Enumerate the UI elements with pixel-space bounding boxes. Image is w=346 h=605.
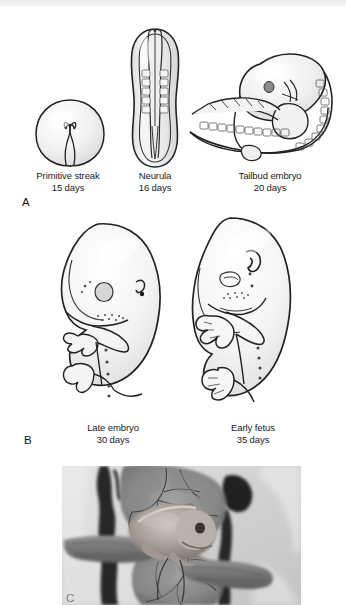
stage-name: Early fetus [231,422,275,433]
caption-primitive-streak: Primitive streak 15 days [8,170,128,193]
figure-late-embryo-limb-buds [52,216,170,412]
figure-tailbud-embryo-somites [186,46,344,166]
panel-letter-b: B [24,434,32,446]
caption-early-fetus: Early fetus 35 days [200,422,306,445]
stage-name: Late embryo [87,422,139,433]
panel-letter-a: A [22,196,30,208]
stage-age: 30 days [97,434,130,445]
figure-early-fetus-digits [180,212,302,412]
caption-neurula: Neurula 16 days [113,170,197,193]
panel-letter-c: C [66,592,74,604]
stage-age: 20 days [254,182,287,193]
stage-age: 16 days [139,182,172,193]
stage-name: Primitive streak [36,170,99,181]
photograph-uterine-specimen [62,466,301,605]
caption-tailbud-embryo: Tailbud embryo 20 days [212,170,328,193]
figure-neurula-neural-groove [123,26,187,170]
stage-name: Neurula [139,170,172,181]
page-top-edge-strip [0,0,346,7]
stage-name: Tailbud embryo [238,170,301,181]
caption-late-embryo: Late embryo 30 days [58,422,168,445]
stage-age: 15 days [52,182,85,193]
figure-page: Primitive streak 15 days Neurula 16 days… [0,0,346,605]
stage-age: 35 days [237,434,270,445]
figure-primitive-streak-disc [30,96,110,170]
